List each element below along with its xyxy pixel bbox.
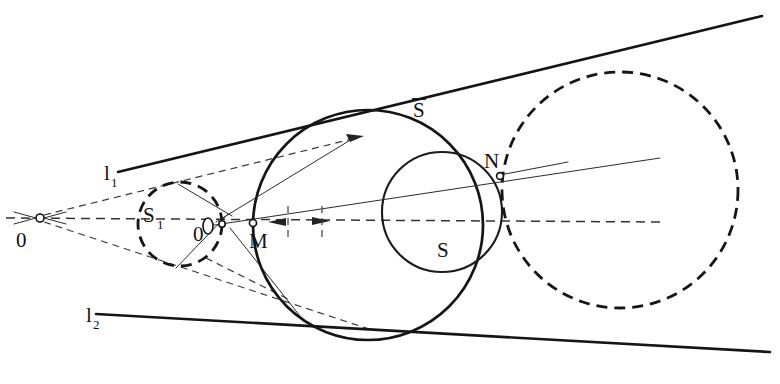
point-marker-m — [249, 219, 256, 226]
axis-dashed-line — [6, 218, 660, 222]
circle-big-dashed — [502, 72, 738, 308]
label-line-l2: l 2 — [86, 303, 100, 332]
oprime-dot — [219, 221, 225, 227]
measure-markers-group — [268, 206, 330, 240]
label-center-oprime: 0 — [193, 222, 204, 246]
dashed-ray-lower — [44, 222, 372, 330]
dashed-ray-upper — [44, 139, 352, 215]
oprime-marker — [203, 218, 213, 234]
label-line-l1-base: l — [104, 161, 110, 185]
label-point-n: N — [484, 149, 499, 173]
measure-arrow-right — [312, 217, 330, 225]
label-circle-s1-sub: 1 — [157, 217, 164, 232]
thin-chords-group — [176, 139, 660, 316]
label-circle-s1: S 1 — [143, 203, 164, 232]
geometry-diagram: 0 l 1 l 2 S 1 0 M S N S — [0, 0, 780, 384]
label-apex-o: 0 — [16, 228, 27, 252]
label-circle-s: S — [437, 238, 449, 262]
label-circle-s-bar: S — [412, 98, 426, 122]
label-circle-s1-base: S — [143, 203, 155, 227]
point-marker-n — [497, 173, 504, 180]
label-line-l1: l 1 — [104, 161, 118, 190]
tangent-line-l1 — [118, 16, 762, 172]
label-line-l2-base: l — [86, 303, 92, 327]
label-line-l1-sub: 1 — [111, 175, 118, 190]
chord-oprime-to-n — [208, 158, 660, 226]
label-line-l2-sub: 2 — [93, 317, 100, 332]
chord-m-to-sbar-top — [216, 139, 352, 222]
label-circle-s-bar-base: S — [413, 98, 425, 122]
figure-canvas: 0 l 1 l 2 S 1 0 M S N S — [0, 0, 780, 384]
label-point-m: M — [249, 229, 268, 253]
point-markers-group — [14, 173, 503, 234]
